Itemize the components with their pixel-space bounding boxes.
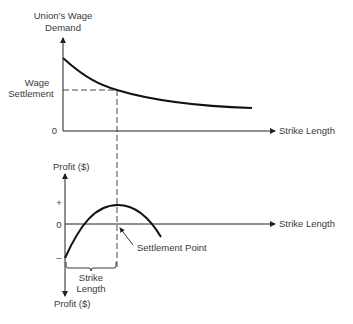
settlement-point-label: Settlement Point xyxy=(137,242,207,253)
bottom-zero-label: 0 xyxy=(56,219,61,230)
bottom-chart: Profit ($) + 0 – Strike Length Settlemen… xyxy=(53,161,335,309)
brace-label-line1: Strike xyxy=(79,272,103,283)
wage-demand-curve xyxy=(63,58,252,108)
bottom-y-axis-label-top: Profit ($) xyxy=(53,161,89,172)
plus-label: + xyxy=(56,197,62,208)
minus-label: – xyxy=(56,252,62,263)
strike-model-diagram: Union's Wage Demand 0 Strike Length Wage… xyxy=(0,0,353,324)
top-y-axis-label-line2: Demand xyxy=(45,22,81,33)
top-y-axis-label-line1: Union's Wage xyxy=(34,10,93,21)
bottom-y-axis-label-bottom: Profit ($) xyxy=(54,298,90,309)
top-x-axis-label: Strike Length xyxy=(279,125,335,136)
strike-length-brace xyxy=(66,262,116,271)
wage-label-line1: Wage xyxy=(25,77,49,88)
wage-label-line2: Settlement xyxy=(8,88,54,99)
bottom-x-axis-label: Strike Length xyxy=(279,218,335,229)
settlement-pointer-arrow xyxy=(120,228,133,245)
top-zero-label: 0 xyxy=(52,125,57,136)
brace-label-line2: Length xyxy=(76,283,105,294)
